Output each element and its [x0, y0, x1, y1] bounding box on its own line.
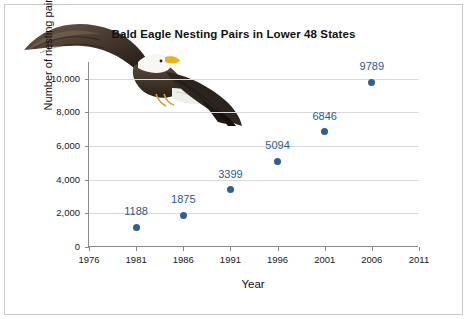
- y-gridline: [89, 112, 419, 113]
- y-tick-mark: [85, 79, 89, 80]
- data-point: [368, 79, 375, 86]
- data-point: [133, 224, 140, 231]
- y-tick-label: 2,000: [56, 207, 80, 218]
- data-point-label: 1875: [158, 193, 208, 205]
- y-tick-label: 4,000: [56, 174, 80, 185]
- data-point: [274, 158, 281, 165]
- x-tick-label: 1981: [116, 254, 156, 265]
- x-tick-mark: [372, 247, 373, 251]
- x-axis-label: Year: [88, 278, 418, 290]
- y-tick-label: 8,000: [56, 106, 80, 117]
- y-tick-label: 0: [75, 241, 80, 252]
- y-gridline: [89, 180, 419, 181]
- y-tick-mark: [85, 112, 89, 113]
- y-axis-label: Number of nesting pairs: [24, 60, 40, 250]
- x-tick-label: 1976: [69, 254, 109, 265]
- data-point: [321, 128, 328, 135]
- x-tick-mark: [183, 247, 184, 251]
- data-point: [227, 186, 234, 193]
- data-point-label: 5094: [253, 139, 303, 151]
- x-tick-label: 1991: [210, 254, 250, 265]
- x-tick-mark: [325, 247, 326, 251]
- data-point-label: 6846: [300, 110, 350, 122]
- x-tick-label: 2006: [352, 254, 392, 265]
- y-tick-mark: [85, 146, 89, 147]
- x-tick-label: 1986: [163, 254, 203, 265]
- x-tick-mark: [278, 247, 279, 251]
- figure-container: Bald Eagle Nesting Pairs in Lower 48 Sta…: [0, 0, 467, 319]
- y-axis-label-text: Number of nesting pairs: [42, 0, 54, 132]
- y-tick-mark: [85, 213, 89, 214]
- y-tick-mark: [85, 180, 89, 181]
- y-tick-label: 6,000: [56, 140, 80, 151]
- x-tick-mark: [419, 247, 420, 251]
- data-point-label: 9789: [347, 60, 397, 72]
- data-point-label: 3399: [205, 168, 255, 180]
- x-tick-label: 2001: [305, 254, 345, 265]
- y-tick-label: 10,000: [51, 73, 80, 84]
- x-tick-mark: [230, 247, 231, 251]
- chart-title: Bald Eagle Nesting Pairs in Lower 48 Sta…: [0, 28, 467, 40]
- x-tick-mark: [89, 247, 90, 251]
- x-tick-label: 2011: [399, 254, 439, 265]
- data-point: [180, 212, 187, 219]
- plot-area: 02,0004,0006,0008,00010,0001976198119861…: [88, 62, 418, 247]
- data-point-label: 1188: [111, 205, 161, 217]
- x-tick-label: 1996: [258, 254, 298, 265]
- x-tick-mark: [136, 247, 137, 251]
